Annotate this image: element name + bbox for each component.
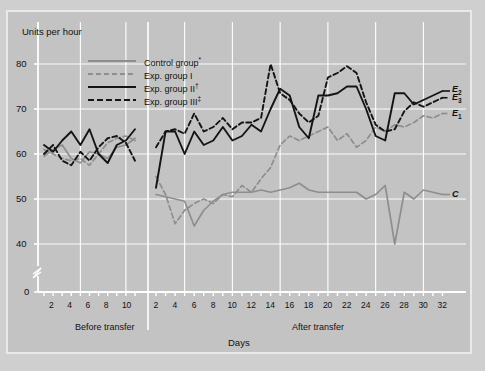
x-tick-after-32: 32 <box>438 300 447 310</box>
phase-label-before: Before transfer <box>75 322 135 332</box>
series-E3 <box>44 64 443 165</box>
end-label-leaders <box>443 91 451 195</box>
y-tick-50: 50 <box>16 194 27 204</box>
x-tick-after-16: 16 <box>285 300 294 310</box>
legend-label-text-1: Exp. group I <box>144 71 193 81</box>
legend-label-1: Exp. group I <box>144 69 193 81</box>
y-tick-40: 40 <box>16 239 27 249</box>
axis-break-symbol <box>33 268 41 278</box>
y-tick-60: 60 <box>16 149 27 159</box>
end-label-E3: E3 <box>452 92 462 106</box>
legend-label-0: Control group* <box>144 56 201 68</box>
axis-lines <box>33 22 466 292</box>
legend-label-text-3: Exp. group III <box>144 97 198 107</box>
end-label-sub-1: 3 <box>458 97 462 104</box>
x-tick-after-2: 2 <box>154 300 159 310</box>
y-axis-title: Units per hour <box>22 27 82 37</box>
x-tick-before-2: 2 <box>49 300 54 310</box>
x-tick-before-6: 6 <box>86 300 91 310</box>
x-tick-after-24: 24 <box>361 300 370 310</box>
end-label-sub-2: 1 <box>458 112 462 119</box>
x-tick-after-26: 26 <box>380 300 389 310</box>
legend-marker-2: † <box>195 82 199 89</box>
legend-label-text-0: Control group <box>144 58 199 68</box>
x-tick-after-14: 14 <box>266 300 275 310</box>
x-tick-before-8: 8 <box>104 300 109 310</box>
legend-marker-3: ‡ <box>198 95 202 102</box>
y-tick-0: 0 <box>24 287 29 297</box>
x-tick-after-28: 28 <box>399 300 408 310</box>
legend-label-3: Exp. group III‡ <box>144 95 201 107</box>
end-label-letter-3: C <box>452 189 459 199</box>
x-tick-after-20: 20 <box>323 300 332 310</box>
chart-plot-svg <box>0 0 485 371</box>
x-tick-after-18: 18 <box>304 300 313 310</box>
end-label-C: C <box>452 189 459 199</box>
x-tick-before-4: 4 <box>67 300 72 310</box>
legend-label-text-2: Exp. group II <box>144 84 195 94</box>
legend-marker-0: * <box>199 56 202 63</box>
x-tick-after-12: 12 <box>247 300 256 310</box>
x-tick-after-10: 10 <box>227 300 236 310</box>
x-tick-after-30: 30 <box>418 300 427 310</box>
chart-root: Units per hour Days Before transfer Afte… <box>0 0 485 371</box>
x-axis-title: Days <box>228 338 250 348</box>
series-E2 <box>44 87 443 188</box>
x-tick-after-8: 8 <box>211 300 216 310</box>
y-tick-70: 70 <box>16 104 27 114</box>
x-tick-before-10: 10 <box>122 300 131 310</box>
y-tick-80: 80 <box>16 59 27 69</box>
x-tick-after-6: 6 <box>192 300 197 310</box>
x-tick-after-22: 22 <box>342 300 351 310</box>
x-tick-after-4: 4 <box>173 300 178 310</box>
legend-label-2: Exp. group II† <box>144 82 199 94</box>
phase-label-after: After transfer <box>292 322 344 332</box>
end-label-E1: E1 <box>452 108 462 122</box>
